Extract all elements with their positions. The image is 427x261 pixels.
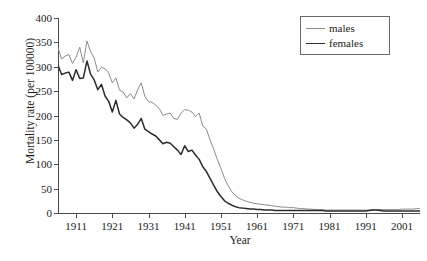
chart-legend: males females [300, 16, 390, 55]
x-tick-mark [366, 214, 367, 218]
x-tick-mark [330, 214, 331, 218]
x-tick-mark [149, 214, 150, 218]
y-tick-mark [54, 213, 58, 214]
legend-swatch-males [306, 28, 325, 29]
x-tick-mark [76, 214, 77, 218]
legend-item-males: males [306, 21, 389, 36]
legend-label-females: females [329, 37, 363, 50]
legend-item-females: females [306, 36, 389, 51]
x-tick-mark [257, 214, 258, 218]
legend-label-males: males [329, 22, 355, 35]
x-tick-label: 2001 [382, 220, 422, 232]
x-tick-label: 1981 [310, 220, 350, 232]
series-line-males [58, 41, 420, 210]
x-tick-mark [402, 214, 403, 218]
x-tick-label: 1991 [346, 220, 386, 232]
y-tick-label: 200 [10, 110, 52, 122]
series-line-females [58, 61, 420, 211]
mortality-rate-line-chart: Mortality rate (per 100000) 050100150200… [0, 0, 427, 261]
y-tick-label: 150 [10, 134, 52, 146]
x-tick-mark [221, 214, 222, 218]
y-tick-label: 50 [10, 183, 52, 195]
x-tick-label: 1961 [237, 220, 277, 232]
x-tick-label: 1911 [56, 220, 96, 232]
y-tick-label: 250 [10, 85, 52, 97]
x-axis-title: Year [160, 234, 320, 247]
x-tick-label: 1971 [273, 220, 313, 232]
x-tick-label: 1951 [201, 220, 241, 232]
y-tick-label: 350 [10, 36, 52, 48]
x-tick-label: 1931 [129, 220, 169, 232]
y-tick-label: 300 [10, 61, 52, 73]
y-tick-label: 100 [10, 158, 52, 170]
y-tick-label: 0 [10, 207, 52, 219]
x-tick-mark [293, 214, 294, 218]
y-tick-label: 400 [10, 12, 52, 24]
legend-swatch-females [306, 43, 325, 44]
x-tick-label: 1921 [92, 220, 132, 232]
x-tick-mark [185, 214, 186, 218]
x-tick-mark [112, 214, 113, 218]
x-tick-label: 1941 [165, 220, 205, 232]
